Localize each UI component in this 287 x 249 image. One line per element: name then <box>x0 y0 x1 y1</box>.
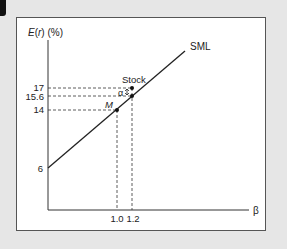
market-point <box>115 108 119 112</box>
x-axis-label: β <box>253 205 259 216</box>
y-axis-label: E(r) (%) <box>28 27 63 38</box>
alpha-arrow-icon <box>125 89 129 95</box>
x-tick-1-2: 1.2 <box>126 213 139 224</box>
stock-label: Stock <box>122 74 146 85</box>
sml-label: SML <box>190 41 211 52</box>
sml-point-stock-beta <box>130 94 134 98</box>
alpha-label: α <box>118 88 123 98</box>
market-label: M <box>105 99 113 110</box>
stock-point <box>130 86 134 90</box>
x-tick-1-0: 1.0 <box>110 213 123 224</box>
y-tick-6: 6 <box>38 163 43 174</box>
y-tick-15-6: 15.6 <box>26 91 45 102</box>
sml-chart: E(r) (%) β 17 15.6 14 6 1.0 1.2 SML Stoc… <box>0 0 287 249</box>
y-tick-14: 14 <box>33 104 44 115</box>
